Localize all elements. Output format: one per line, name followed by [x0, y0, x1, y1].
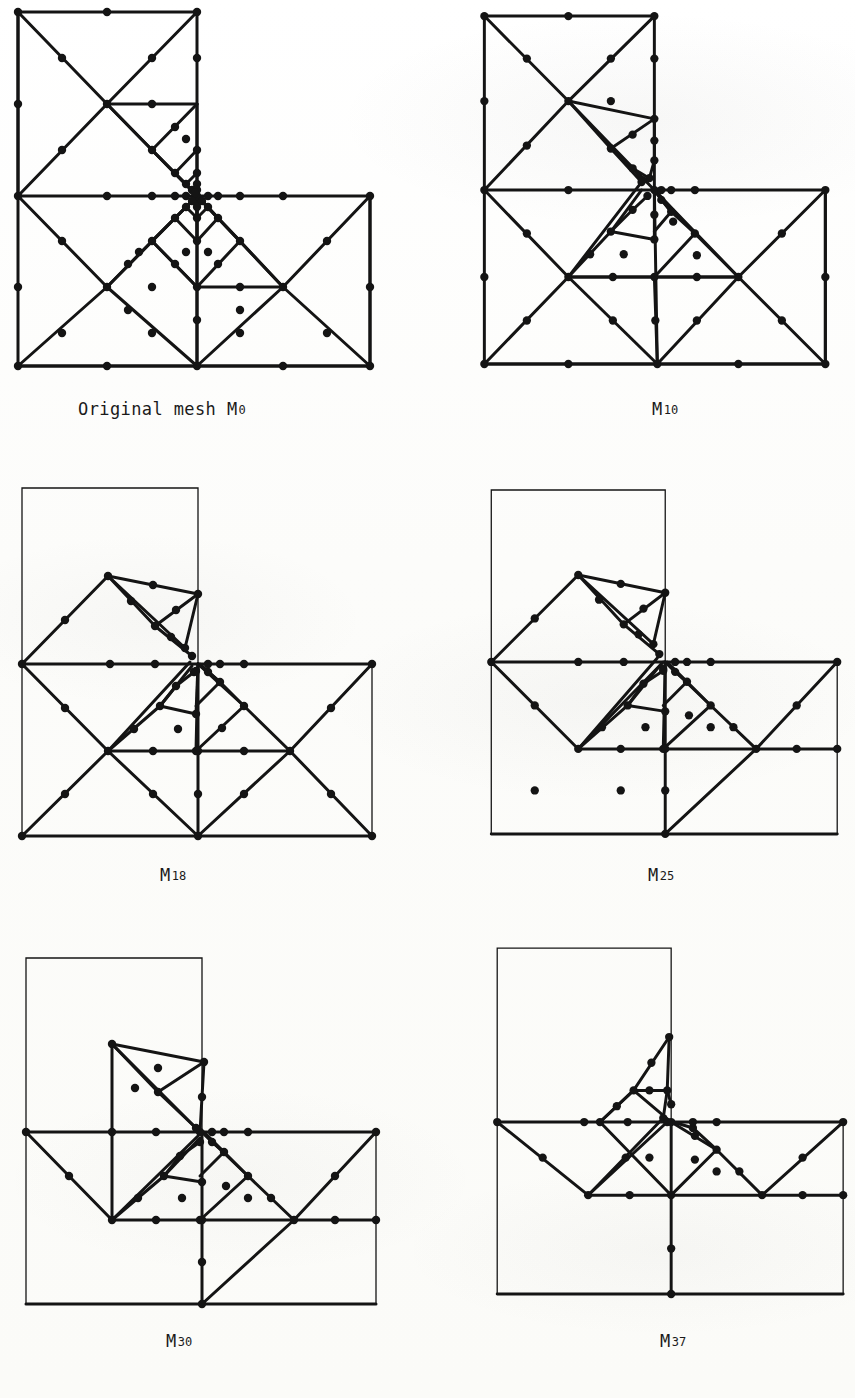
- mesh-node: [106, 660, 114, 668]
- mesh-svg-M30: [0, 932, 430, 1317]
- mesh-node: [148, 237, 156, 245]
- mesh-node: [624, 1118, 632, 1126]
- mesh-edge: [654, 234, 695, 277]
- mesh-edge: [667, 1037, 669, 1090]
- mesh-node: [194, 590, 202, 598]
- mesh-node: [650, 235, 658, 243]
- mesh-node: [200, 1058, 208, 1066]
- mesh-node: [647, 1059, 655, 1067]
- mesh-edge: [108, 662, 190, 751]
- mesh-node: [193, 362, 201, 370]
- mesh-node: [539, 1153, 547, 1161]
- mesh-node: [564, 360, 572, 368]
- mesh-node: [617, 786, 625, 794]
- mesh-node: [14, 362, 22, 370]
- mesh-node: [193, 214, 201, 222]
- mesh-node: [712, 1167, 720, 1175]
- mesh-node: [204, 192, 212, 200]
- mesh-node: [178, 1194, 186, 1202]
- mesh-node: [240, 790, 248, 798]
- mesh-plot-M18: [0, 466, 430, 851]
- mesh-node: [580, 1118, 588, 1126]
- mesh-node: [661, 707, 669, 715]
- mesh-node: [366, 362, 374, 370]
- mesh-node: [190, 668, 198, 676]
- mesh-node: [617, 745, 625, 753]
- mesh-edge: [175, 150, 197, 173]
- mesh-node: [667, 1244, 675, 1252]
- mesh-svg-M10: [430, 0, 855, 385]
- mesh-node: [194, 832, 202, 840]
- mesh-node: [192, 710, 200, 718]
- mesh-node: [691, 1155, 699, 1163]
- mesh-node: [160, 1172, 168, 1180]
- mesh-node: [174, 725, 182, 733]
- mesh-node: [188, 197, 196, 205]
- mesh-node: [193, 146, 201, 154]
- mesh-node: [649, 640, 657, 648]
- mesh-node: [617, 580, 625, 588]
- mesh-node: [14, 192, 22, 200]
- mesh-node: [127, 597, 135, 605]
- mesh-node: [368, 832, 376, 840]
- mesh-node: [220, 1148, 228, 1156]
- mesh-node: [689, 1118, 697, 1126]
- mesh-node: [665, 1033, 673, 1041]
- mesh-caption-M25: M25: [430, 851, 855, 932]
- mesh-edge: [240, 241, 283, 287]
- mesh-edge: [197, 218, 218, 241]
- mesh-node: [839, 1118, 847, 1126]
- mesh-node: [204, 248, 212, 256]
- mesh-node: [198, 1093, 206, 1101]
- mesh-node: [152, 1216, 160, 1224]
- mesh-node: [691, 229, 699, 237]
- mesh-node: [194, 747, 202, 755]
- mesh-node: [683, 658, 691, 666]
- mesh-node: [124, 260, 132, 268]
- mesh-node: [629, 1086, 637, 1094]
- mesh-caption-main-M30: M: [166, 1331, 177, 1351]
- mesh-node: [240, 702, 248, 710]
- mesh-node: [634, 630, 642, 638]
- mesh-caption-subscript-M25: 25: [660, 869, 675, 883]
- mesh-node: [134, 1194, 142, 1202]
- mesh-panel-M37: M37: [430, 932, 855, 1398]
- mesh-node: [564, 97, 572, 105]
- mesh-node: [798, 1153, 806, 1161]
- mesh-node: [236, 306, 244, 314]
- mesh-node: [131, 1084, 139, 1092]
- mesh-edge: [687, 682, 711, 706]
- mesh-node: [607, 227, 615, 235]
- mesh-node: [167, 633, 175, 641]
- mesh-node: [14, 8, 22, 16]
- mesh-node: [148, 146, 156, 154]
- mesh-node: [58, 237, 66, 245]
- mesh-caption-main-M10: M: [652, 399, 663, 419]
- mesh-node: [244, 1194, 252, 1202]
- mesh-node: [148, 54, 156, 62]
- mesh-node: [645, 1086, 653, 1094]
- mesh-caption-main-M37: M: [660, 1331, 671, 1351]
- mesh-edge: [600, 1122, 671, 1195]
- mesh-node: [480, 186, 488, 194]
- mesh-node: [531, 614, 539, 622]
- mesh-node: [574, 658, 582, 666]
- mesh-node: [531, 701, 539, 709]
- mesh-node: [18, 832, 26, 840]
- mesh-node: [108, 1128, 116, 1136]
- mesh-node: [650, 156, 658, 164]
- mesh-node: [480, 360, 488, 368]
- mesh-node: [327, 790, 335, 798]
- mesh-node: [693, 251, 701, 259]
- mesh-node: [193, 237, 201, 245]
- mesh-node: [821, 360, 829, 368]
- mesh-edge: [197, 287, 283, 366]
- mesh-node: [667, 186, 675, 194]
- mesh-node: [103, 192, 111, 200]
- mesh-node: [236, 283, 244, 291]
- mesh-caption-subscript-M18: 18: [172, 869, 187, 883]
- mesh-edge: [665, 749, 756, 834]
- mesh-node: [638, 176, 646, 184]
- mesh-node: [148, 329, 156, 337]
- mesh-caption-M18: M18: [0, 851, 430, 932]
